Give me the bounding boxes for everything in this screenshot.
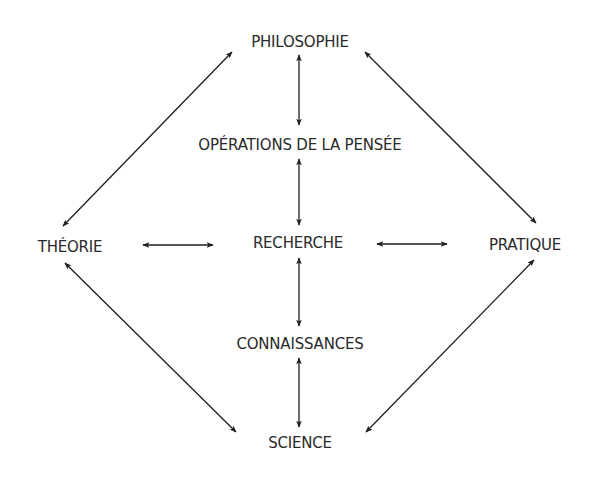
node-operations-de-la-pensee: OPÉRATIONS DE LA PENSÉE	[198, 138, 401, 153]
diagram-canvas: PHILOSOPHIE OPÉRATIONS DE LA PENSÉE THÉO…	[0, 0, 590, 478]
node-pratique: PRATIQUE	[489, 238, 561, 253]
arrow-pratique-science	[366, 260, 534, 432]
arrow-theorie-science	[65, 263, 236, 432]
node-philosophie: PHILOSOPHIE	[251, 35, 349, 50]
node-connaissances: CONNAISSANCES	[236, 337, 363, 352]
node-recherche: RECHERCHE	[253, 236, 343, 251]
node-science: SCIENCE	[268, 436, 332, 451]
node-theorie: THÉORIE	[38, 240, 103, 255]
